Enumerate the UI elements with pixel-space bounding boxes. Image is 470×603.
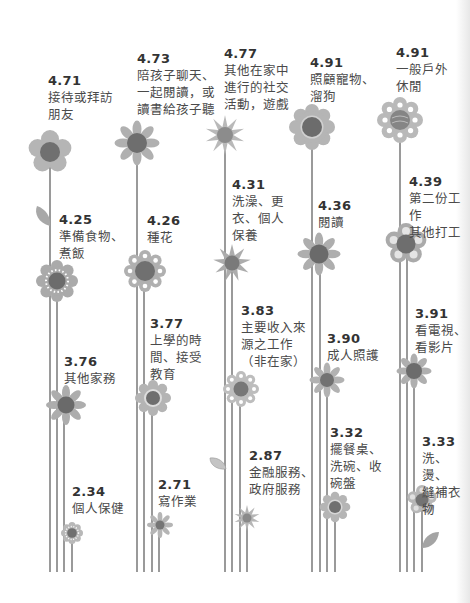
- flower-icon: [134, 379, 172, 417]
- activity-text: 接待或拜訪 朋友: [48, 89, 113, 123]
- activity-text: 洗澡、更 衣、個人 保養: [232, 193, 284, 244]
- activity-text: 寫作業: [158, 493, 197, 510]
- activity-text: 擺餐桌、 洗碗、收 碗盤: [330, 441, 382, 492]
- data-label: 2.71 寫作業: [158, 477, 197, 510]
- flower-icon: [233, 504, 261, 532]
- value-text: 2.34: [72, 484, 124, 500]
- activity-text: 陪孩子聊天、 一起閱讀，或 讀書給孩子聽: [137, 67, 215, 118]
- flower-icon: [123, 249, 167, 293]
- activity-text: 上學的時 間、接受 教育: [150, 332, 202, 383]
- value-text: 4.25: [59, 212, 124, 228]
- stem: [143, 270, 145, 572]
- flower-icon: [46, 385, 86, 425]
- leaf-icon: [34, 205, 52, 227]
- leaf-icon: [420, 530, 440, 550]
- page-edge-shadow: [456, 0, 470, 603]
- data-label: 3.32 擺餐桌、 洗碗、收 碗盤: [330, 425, 382, 492]
- data-label: 2.87 金融服務、 政府服務: [249, 448, 314, 498]
- activity-text: 金融服務、 政府服務: [249, 464, 314, 498]
- value-text: 4.71: [48, 73, 113, 89]
- flower-icon: [114, 120, 160, 166]
- data-label: 3.90 成人照護: [327, 331, 379, 364]
- data-label: 4.71 接待或拜訪 朋友: [48, 73, 113, 123]
- data-label: 4.25 準備食物、 煮飯: [59, 212, 124, 262]
- flower-icon: [309, 362, 345, 398]
- activity-text: 一般戶外 休閒: [396, 61, 448, 95]
- value-text: 4.36: [318, 198, 351, 214]
- stem: [63, 405, 65, 572]
- value-text: 3.90: [327, 331, 379, 347]
- activity-text: 其他家務: [64, 370, 116, 387]
- stem: [224, 134, 226, 572]
- data-label: 4.31 洗澡、更 衣、個人 保養: [232, 177, 284, 244]
- activity-text: 準備食物、 煮飯: [59, 228, 124, 262]
- activity-text: 成人照護: [327, 347, 379, 364]
- activity-text: 其他在家中 進行的社交 活動，遊戲: [224, 62, 289, 113]
- stem: [151, 398, 153, 572]
- stem: [56, 281, 58, 572]
- data-label: 3.83 主要收入來 源之工作 （非在家）: [241, 303, 306, 370]
- flower-icon: [147, 512, 173, 538]
- data-label: 4.77 其他在家中 進行的社交 活動，遊戲: [224, 46, 289, 113]
- value-text: 3.32: [330, 425, 382, 441]
- flower-icon: [211, 242, 253, 284]
- stem: [326, 380, 328, 572]
- value-text: 2.87: [249, 448, 314, 464]
- stem: [319, 253, 321, 572]
- value-text: 4.77: [224, 46, 289, 62]
- stem: [136, 143, 138, 572]
- leaf-icon: [209, 455, 227, 471]
- data-label: 3.76 其他家務: [64, 354, 116, 387]
- flower-icon: [288, 103, 336, 151]
- activity-text: 個人保健: [72, 500, 124, 517]
- stem: [399, 120, 401, 572]
- value-text: 3.76: [64, 354, 116, 370]
- value-text: 3.77: [150, 316, 202, 332]
- flower-icon: [297, 232, 341, 276]
- stem: [413, 371, 415, 572]
- data-label: 4.36 閱讀: [318, 198, 351, 231]
- flower-icon: [396, 353, 432, 389]
- value-text: 4.31: [232, 177, 284, 193]
- flower-icon: [319, 491, 351, 523]
- data-label: 2.34 個人保健: [72, 484, 124, 517]
- stem: [239, 389, 241, 572]
- data-label: 4.91 一般戶外 休閒: [396, 45, 448, 95]
- data-label: 4.73 陪孩子聊天、 一起閱讀，或 讀書給孩子聽: [137, 51, 215, 118]
- stem: [311, 126, 313, 572]
- flower-icon: [61, 522, 83, 544]
- activity-text: 照顧寵物、 溜狗: [310, 71, 375, 105]
- value-text: 4.91: [310, 55, 375, 71]
- value-text: 4.73: [137, 51, 215, 67]
- value-text: 4.26: [147, 213, 180, 229]
- stem: [406, 244, 408, 572]
- flower-icon: [203, 113, 247, 157]
- flower-icon: [35, 259, 79, 303]
- activity-text: 閱讀: [318, 214, 351, 231]
- flower-icon: [376, 96, 424, 144]
- activity-text: 種花: [147, 229, 180, 246]
- value-text: 4.91: [396, 45, 448, 61]
- data-label: 4.91 照顧寵物、 溜狗: [310, 55, 375, 105]
- flower-icon: [222, 370, 260, 408]
- data-label: 3.77 上學的時 間、接受 教育: [150, 316, 202, 383]
- activity-text: 主要收入來 源之工作 （非在家）: [241, 319, 306, 370]
- value-text: 3.83: [241, 303, 306, 319]
- value-text: 2.71: [158, 477, 197, 493]
- data-label: 4.26 種花: [147, 213, 180, 246]
- flower-icon: [27, 129, 73, 175]
